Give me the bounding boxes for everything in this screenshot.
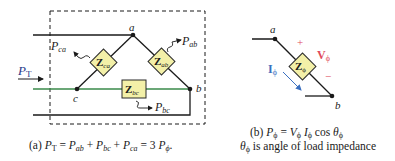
node-c <box>75 87 80 92</box>
node-c-label: c <box>73 92 78 104</box>
power-flow-bc-arrow <box>136 101 152 108</box>
three-phase-delta-diagram: a b c Zca Zab Zbc Pca Pab Pbc PT <box>0 0 395 161</box>
node-a <box>273 37 278 42</box>
power-ab-label: Pab <box>181 34 197 49</box>
figure-b: a b Zϕ + Vϕ − Iϕ (b) Pϕ = Vϕ Iϕ cos θϕ θ… <box>240 23 376 154</box>
node-a-label: a <box>270 23 276 35</box>
voltage-plus: + <box>297 36 303 48</box>
total-power-label: PT <box>17 63 32 79</box>
node-b <box>330 94 335 99</box>
figure-a: a b c Zca Zab Zbc Pca Pab Pbc PT <box>17 11 205 153</box>
impedance-zbc: Zbc <box>122 80 146 98</box>
caption-a: (a) PT = Pab + Pbc + Pca = 3 Pϕ. <box>29 139 173 153</box>
caption-b-line1: (b) Pϕ = Vϕ Iϕ cos θϕ <box>250 126 343 140</box>
power-ca-label: Pca <box>50 39 66 54</box>
node-a <box>131 33 136 38</box>
caption-b-line2: θϕ is angle of load impedance <box>240 140 376 154</box>
current-label: Iϕ <box>268 62 277 77</box>
power-bc-label: Pbc <box>154 100 170 115</box>
power-flow-ab-arrow <box>167 40 181 52</box>
power-flow-ca-arrow <box>74 52 90 59</box>
dashed-load-boundary <box>50 11 205 124</box>
node-a-label: a <box>129 21 135 33</box>
voltage-label: Vϕ <box>317 48 330 63</box>
node-b-label: b <box>196 82 202 94</box>
voltage-minus: − <box>325 70 331 82</box>
node-b-label: b <box>335 99 341 111</box>
node-b <box>188 87 193 92</box>
